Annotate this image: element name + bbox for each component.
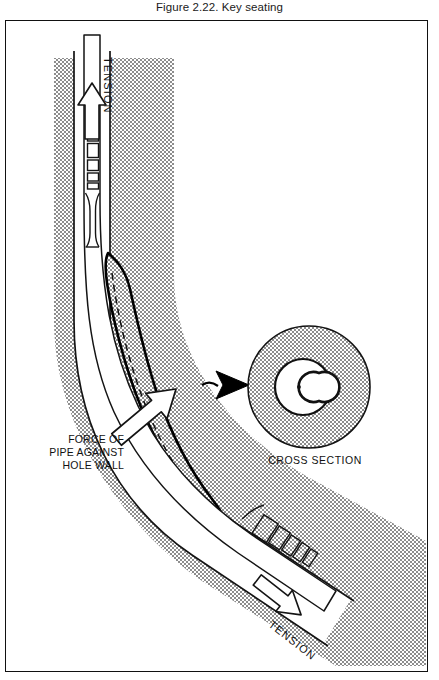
force-label: FORCE OF PIPE AGAINST HOLE WALL [20, 433, 124, 471]
figure-frame: TENSION TENSION FORCE OF PIPE AGAINST HO… [5, 20, 428, 672]
tension-top-label: TENSION [101, 57, 114, 114]
force-label-line-2: PIPE AGAINST [20, 446, 124, 459]
callout-pointer-head [216, 371, 249, 399]
cross-section-detail [248, 326, 370, 448]
force-label-line-3: HOLE WALL [20, 459, 124, 472]
figure-page: Figure 2.22. Key seating [0, 0, 439, 680]
cross-section-label: CROSS SECTION [250, 454, 380, 467]
key-seating-illustration [6, 21, 426, 670]
cross-section-center-dot [297, 385, 301, 389]
figure-caption: Figure 2.22. Key seating [0, 1, 439, 13]
cross-section-pipe-in-keyseat [299, 372, 340, 402]
formation-rock-band [6, 21, 426, 670]
force-label-line-1: FORCE OF [20, 433, 124, 446]
